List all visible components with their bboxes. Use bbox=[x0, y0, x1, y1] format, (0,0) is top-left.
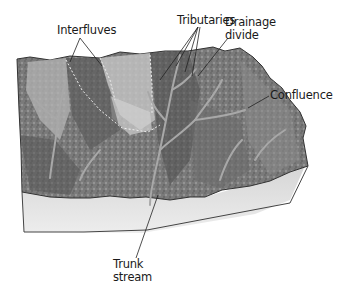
terrain-surface bbox=[17, 47, 308, 205]
label-drainage-divide: Drainage divide bbox=[225, 16, 276, 42]
label-trunk-stream: Trunk stream bbox=[113, 258, 152, 284]
drainage-basin-diagram bbox=[0, 0, 342, 300]
label-trunk-stream-line2: stream bbox=[113, 271, 152, 284]
label-confluence: Confluence bbox=[270, 89, 333, 102]
label-drainage-divide-line2: divide bbox=[225, 29, 276, 42]
label-interfluves: Interfluves bbox=[57, 24, 116, 37]
